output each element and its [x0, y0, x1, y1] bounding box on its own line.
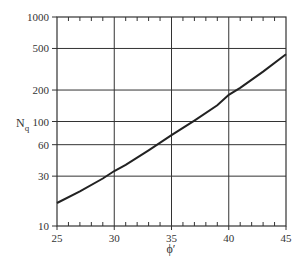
- y-tick-label: 1000: [27, 11, 50, 23]
- x-tick-label: 25: [52, 232, 64, 244]
- y-tick-label: 100: [33, 116, 50, 128]
- grid-lines: [57, 17, 286, 226]
- y-tick-label: 10: [38, 220, 50, 232]
- y-axis-label: Nq: [16, 116, 30, 133]
- y-tick-label: 500: [33, 42, 50, 54]
- y-tick-label: 60: [38, 139, 50, 151]
- nq-vs-phi-chart: 1030601002005001000 2530354045 Nq ϕ′: [0, 0, 305, 271]
- y-tick-label: 30: [38, 170, 50, 182]
- x-axis-label: ϕ′: [167, 242, 176, 256]
- x-tick-label: 30: [109, 232, 121, 244]
- x-tick-label: 45: [281, 232, 293, 244]
- y-tick-label: 200: [33, 84, 50, 96]
- x-tick-label: 40: [223, 232, 235, 244]
- y-axis-ticks: 1030601002005001000: [27, 11, 57, 232]
